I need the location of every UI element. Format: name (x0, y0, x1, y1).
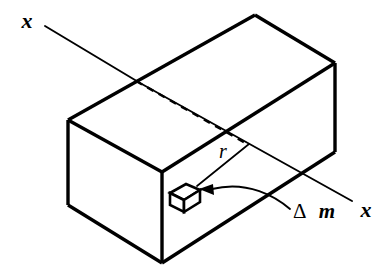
mass-element-label: Δ m (293, 199, 335, 223)
solid-body (68, 15, 335, 263)
mass-symbol: m (319, 199, 335, 223)
axis-label-right: x (360, 197, 372, 222)
axis-label-left: x (21, 8, 33, 33)
axis-line-upper (45, 26, 140, 83)
radius-label: r (219, 140, 227, 162)
delta-symbol: Δ (293, 199, 307, 223)
figure-container: x x r Δ m (0, 0, 389, 279)
moment-of-inertia-diagram: x x r Δ m (0, 0, 389, 279)
